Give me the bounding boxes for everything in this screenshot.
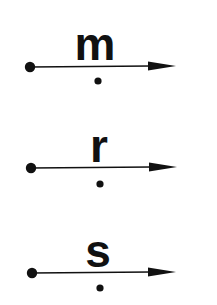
ray-endpoint — [26, 163, 36, 173]
arrowhead-icon — [148, 62, 176, 71]
ray-label: r — [90, 120, 108, 172]
ray-m: m — [25, 18, 176, 85]
ray-label: s — [85, 225, 111, 277]
ray-endpoint — [27, 268, 37, 278]
arrowhead-icon — [149, 163, 177, 172]
point-below-ray — [96, 180, 103, 187]
ray-endpoint — [25, 62, 35, 72]
point-below-ray — [96, 284, 103, 291]
rays-diagram: m r s — [0, 0, 217, 305]
ray-r: r — [26, 120, 177, 188]
arrowhead-icon — [148, 268, 176, 277]
ray-s: s — [27, 225, 176, 292]
ray-label: m — [75, 18, 116, 70]
point-below-ray — [94, 77, 101, 84]
